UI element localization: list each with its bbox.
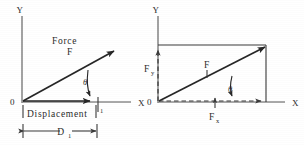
theta-angle-arc: [87, 70, 90, 96]
figure-root: Y X 0 Force F θ 1 Displacement D 1: [0, 0, 304, 145]
fy-subscript-label: y: [151, 69, 155, 76]
force-label-symbol: F: [67, 47, 73, 57]
right-origin-label: 0: [147, 97, 152, 107]
right-y-axis-label: Y: [153, 5, 160, 15]
x-tick-one-label: 1: [100, 107, 103, 114]
fx-symbol-label: F: [209, 112, 215, 122]
displacement-label: Displacement: [27, 109, 88, 119]
fx-subscript-label: x: [216, 117, 220, 124]
force-label-word: Force: [52, 36, 77, 46]
fy-symbol-label: F: [144, 64, 150, 74]
d1-symbol-label: D: [57, 127, 65, 137]
left-panel-group: Y X 0 Force F θ 1 Displacement D 1: [10, 5, 145, 139]
left-theta-label: θ: [83, 77, 87, 87]
force-vector-arrow: [23, 51, 114, 101]
right-panel-group: Y X 0 F y F θ F x: [144, 5, 299, 124]
right-force-label: F: [204, 60, 210, 70]
resultant-force-vector-arrow: [159, 47, 265, 101]
d1-subscript-label: 1: [68, 132, 71, 139]
left-y-axis-label: Y: [17, 5, 24, 15]
right-theta-label: θ: [228, 84, 232, 94]
right-x-axis-label: X: [292, 98, 299, 108]
figure-canvas: Y X 0 Force F θ 1 Displacement D 1: [0, 0, 304, 145]
left-origin-label: 0: [10, 97, 15, 107]
left-x-axis-label: X: [138, 98, 145, 108]
